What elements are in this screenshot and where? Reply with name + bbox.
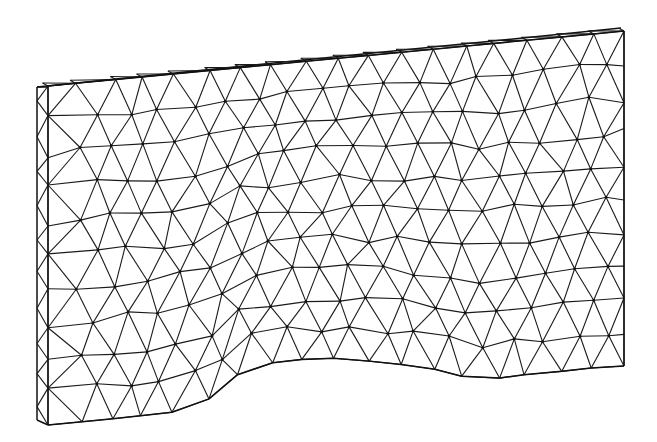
mesh-edge [516, 273, 545, 278]
mesh-edge [514, 173, 525, 204]
mesh-edge [222, 360, 237, 375]
mesh-edge [164, 249, 180, 272]
mesh-edge [125, 246, 164, 248]
mesh-edge [210, 204, 228, 223]
mesh-edge [228, 213, 258, 223]
mesh-edge [513, 75, 525, 110]
mesh-edge [450, 46, 467, 84]
mesh-edge [450, 84, 462, 112]
mesh-edge [476, 75, 513, 76]
mesh-edge [575, 232, 589, 268]
mesh-edge [403, 275, 414, 298]
mesh-edge [543, 342, 562, 372]
mesh-edge [196, 101, 226, 107]
mesh-edge [180, 268, 210, 272]
mesh-edge [433, 112, 452, 143]
mesh-edge [322, 332, 334, 358]
mesh-edge [37, 158, 48, 172]
mesh-edge [404, 181, 417, 209]
mesh-edge [193, 223, 228, 244]
mesh-node [507, 141, 510, 144]
mesh-node [146, 351, 149, 354]
mesh-edge [81, 220, 98, 250]
mesh-edges [48, 31, 624, 425]
mesh-edge [418, 209, 449, 211]
mesh-node [75, 288, 78, 291]
mesh-edge [451, 278, 466, 313]
mesh-edge [348, 265, 384, 267]
mesh-node [387, 332, 390, 335]
mesh-node [412, 274, 415, 277]
mesh-edge [414, 275, 451, 278]
mesh-edge [542, 205, 573, 206]
mesh-edge [225, 99, 259, 101]
mesh-node [331, 233, 334, 236]
mesh-edge [483, 339, 515, 348]
mesh-edge [322, 301, 340, 332]
mesh-edge [434, 176, 448, 210]
mesh-edge [479, 243, 500, 283]
mesh-edge [451, 278, 480, 283]
mesh-edge [300, 213, 322, 237]
mesh-node [607, 334, 610, 337]
mesh-edge [608, 266, 624, 298]
mesh-edge [349, 298, 365, 327]
mesh-edge [383, 52, 401, 83]
mesh-edge [606, 197, 624, 235]
mesh-node [602, 135, 605, 138]
mesh-node [447, 209, 450, 212]
mesh-edge [164, 212, 172, 249]
mesh-edge [271, 267, 293, 306]
mesh-node [348, 84, 351, 87]
mesh-edge [257, 275, 271, 306]
mesh-edge [609, 336, 624, 366]
mesh-edge [607, 65, 624, 103]
mesh-edge [319, 265, 347, 268]
mesh-node [221, 358, 224, 361]
mesh-edge [316, 120, 336, 146]
mesh-edge [288, 183, 301, 213]
mesh-edge [110, 181, 128, 213]
mesh-edge [37, 374, 48, 388]
mesh-edge [609, 298, 624, 336]
mesh-edge [562, 37, 580, 65]
mesh-edge [209, 101, 225, 134]
mesh-edge [449, 210, 462, 244]
mesh-edge [463, 77, 477, 112]
mesh-edge [436, 308, 449, 336]
mesh-edge [526, 173, 543, 206]
mesh-node [282, 149, 285, 152]
mesh-node [267, 240, 270, 243]
mesh-node [513, 203, 516, 206]
mesh-node [587, 231, 590, 234]
mesh-edge [564, 171, 574, 205]
mesh-node [544, 272, 547, 275]
mesh-edge [476, 43, 494, 76]
mesh-edge [559, 232, 588, 237]
mesh-node [524, 172, 527, 175]
mesh-edge [433, 49, 450, 83]
mesh-edge [82, 384, 97, 422]
mesh-edge [349, 55, 369, 85]
mesh-edge [132, 110, 157, 115]
mesh-edge [209, 134, 228, 167]
mesh-node [382, 204, 385, 207]
mesh-edge [404, 176, 434, 181]
mesh-edge [193, 244, 210, 268]
mesh-edge [402, 112, 433, 113]
mesh-node [450, 142, 453, 145]
mesh-edge [524, 342, 543, 375]
mesh-edge [516, 243, 530, 278]
mesh-node [401, 111, 404, 114]
mesh-edge [287, 327, 302, 360]
mesh-edge [496, 308, 531, 311]
mesh-edge [606, 197, 624, 200]
mesh-edge [465, 311, 496, 313]
mesh-edge [316, 146, 339, 175]
mesh-edge [306, 301, 340, 302]
mesh-edge [340, 146, 354, 175]
mesh-edge [369, 205, 384, 242]
mesh-edge [222, 254, 242, 294]
mesh-edge [340, 298, 365, 302]
mesh-edge [258, 154, 268, 188]
